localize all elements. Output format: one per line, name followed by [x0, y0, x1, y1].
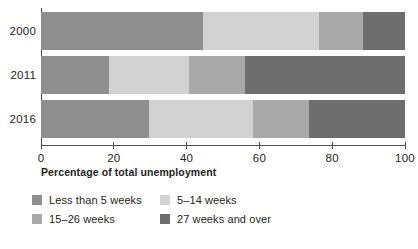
legend-item-27-weeks-and-over: 27 weeks and over [160, 213, 271, 225]
legend-swatch-icon [32, 214, 42, 224]
bar-segment [109, 56, 188, 94]
plot-area [41, 8, 405, 143]
legend-item-15-26-weeks: 15–26 weeks [32, 213, 160, 225]
x-axis-tick [113, 142, 114, 149]
legend-label: Less than 5 weeks [49, 194, 142, 206]
x-axis-tick-label: 40 [180, 152, 193, 164]
bar-segment [203, 12, 319, 50]
x-axis-tick [405, 142, 406, 149]
legend-swatch-icon [32, 195, 42, 205]
legend-item-less-than-5-weeks: Less than 5 weeks [32, 194, 160, 206]
bar-row [41, 12, 405, 50]
stacked-bar-chart: 2000 2011 2016 020406080100 Percentage o… [0, 0, 418, 249]
bar-segment [363, 12, 405, 50]
x-axis-tick [332, 142, 333, 149]
chart-legend: Less than 5 weeks 5–14 weeks 15–26 weeks… [32, 191, 332, 229]
legend-swatch-icon [160, 214, 170, 224]
bar-segment [41, 56, 109, 94]
legend-item-5-14-weeks: 5–14 weeks [160, 194, 237, 206]
legend-label: 5–14 weeks [177, 194, 237, 206]
bar-segment [189, 56, 245, 94]
x-axis-tick [186, 142, 187, 149]
bar-segment [41, 100, 149, 138]
y-tick-label-2016: 2016 [0, 113, 36, 125]
x-axis-title: Percentage of total unemployment [41, 166, 216, 178]
bar-row [41, 56, 405, 94]
bar-segment [41, 12, 203, 50]
bar-row [41, 100, 405, 138]
x-axis-tick-label: 100 [395, 152, 415, 164]
legend-label: 15–26 weeks [49, 213, 115, 225]
bar-segment [149, 100, 253, 138]
legend-row: 15–26 weeks 27 weeks and over [32, 210, 332, 227]
y-tick-label-2011: 2011 [0, 69, 36, 81]
x-axis-tick [259, 142, 260, 149]
x-axis-tick-label: 0 [38, 152, 45, 164]
y-tick-label-2000: 2000 [0, 25, 36, 37]
legend-row: Less than 5 weeks 5–14 weeks [32, 191, 332, 208]
bar-segment [309, 100, 405, 138]
x-axis-tick [41, 142, 42, 149]
bar-segment [253, 100, 309, 138]
legend-label: 27 weeks and over [177, 213, 271, 225]
bar-segment [319, 12, 362, 50]
bar-segment [245, 56, 405, 94]
legend-swatch-icon [160, 195, 170, 205]
x-axis-tick-label: 20 [107, 152, 120, 164]
x-axis-tick-label: 80 [326, 152, 339, 164]
x-axis-tick-label: 60 [253, 152, 266, 164]
